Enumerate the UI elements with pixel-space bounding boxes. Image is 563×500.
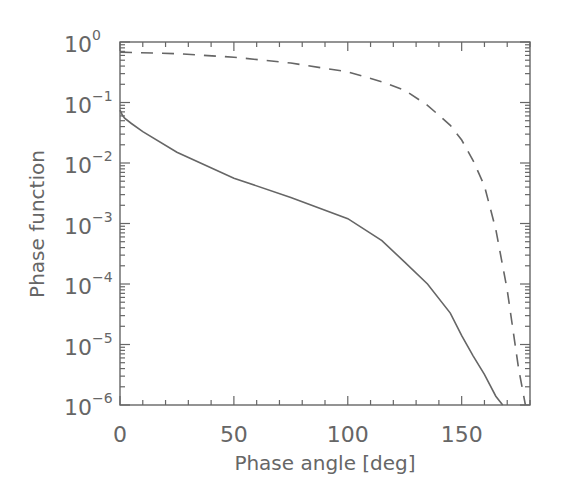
x-axis-title: Phase angle [deg] <box>234 451 415 475</box>
dashed-curve <box>120 52 525 405</box>
x-tick-label: 100 <box>327 422 369 447</box>
y-tick-label: 10 <box>64 93 92 118</box>
solid-curve <box>120 110 503 405</box>
y-tick-exponent: −6 <box>92 390 113 406</box>
y-tick-exponent: −4 <box>92 269 113 285</box>
y-tick-label: 10 <box>64 153 92 178</box>
x-tick-labels: 050100150 <box>113 422 483 447</box>
y-tick-label: 10 <box>64 32 92 57</box>
plot-frame <box>120 42 530 405</box>
y-tick-exponent: −2 <box>92 148 113 164</box>
y-tick-exponent: 0 <box>92 27 101 43</box>
y-axis-title: Phase function <box>25 150 49 298</box>
y-tick-exponent: −3 <box>92 209 113 225</box>
axis-ticks <box>120 42 530 405</box>
x-tick-label: 50 <box>220 422 248 447</box>
x-tick-label: 150 <box>441 422 483 447</box>
y-tick-labels: 10010−110−210−310−410−510−6 <box>64 27 113 420</box>
x-tick-label: 0 <box>113 422 127 447</box>
y-tick-label: 10 <box>64 274 92 299</box>
y-tick-exponent: −1 <box>92 88 113 104</box>
phase-function-chart: 050100150 10010−110−210−310−410−510−6 Ph… <box>0 0 563 500</box>
y-tick-exponent: −5 <box>92 330 113 346</box>
y-tick-label: 10 <box>64 335 92 360</box>
y-tick-label: 10 <box>64 395 92 420</box>
y-tick-label: 10 <box>64 214 92 239</box>
